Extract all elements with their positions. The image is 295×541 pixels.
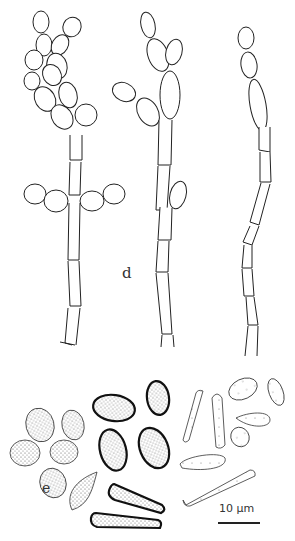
spores-stippled: [10, 405, 97, 510]
scale-bar: [218, 522, 260, 524]
panel-label-e: e: [42, 480, 50, 496]
chain-right: [238, 27, 271, 356]
chain-middle: [109, 11, 189, 347]
scale-bar-label: 10 µm: [219, 502, 254, 515]
figure-illustration: [0, 0, 295, 541]
chain-left: [24, 11, 125, 345]
panel-label-d: d: [122, 264, 132, 282]
spores-thick-walled: [91, 380, 175, 528]
spores-thin-walled: [180, 374, 287, 507]
